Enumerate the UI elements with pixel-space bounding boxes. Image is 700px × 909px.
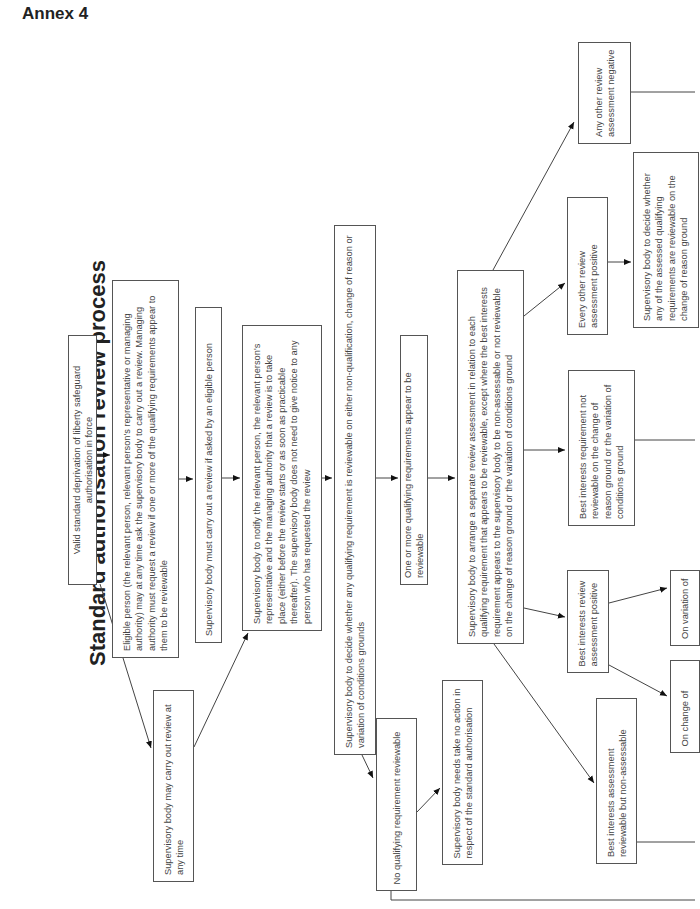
- node-bi-non-assessable: Best interests assessment reviewable but…: [596, 698, 637, 864]
- node-decide-change-of-reason: Supervisory body to decide whether any o…: [633, 152, 699, 328]
- node-every-other-positive: Every other review assessment positive: [567, 197, 608, 335]
- node-arrange-assessment: Supervisory body to arrange a separate r…: [457, 270, 524, 644]
- node-must-carry-out: Supervisory body must carry out a review…: [195, 307, 222, 643]
- node-on-change-of-text: On change of: [679, 660, 691, 753]
- node-any-other-negative-text: Any other review assessment negative: [592, 42, 617, 144]
- node-one-or-more: One or more qualifying requirements appe…: [400, 335, 428, 585]
- node-on-change-of: On change of: [670, 660, 700, 753]
- node-on-variation-of: On variation of: [670, 570, 700, 646]
- node-one-or-more-text: One or more qualifying requirements appe…: [402, 335, 427, 585]
- node-may-carry-out: Supervisory body may carry out review at…: [153, 690, 194, 882]
- node-notify-text: Supervisory body to notify the relevant …: [251, 325, 313, 631]
- node-no-qualifying: No qualifying requirement reviewable: [376, 718, 417, 891]
- node-bi-positive-text: Best interests review assessment positiv…: [576, 570, 601, 673]
- node-notify: Supervisory body to notify the relevant …: [242, 325, 322, 631]
- node-no-action-text: Supervisory body needs take no action in…: [450, 680, 475, 865]
- annex-label: Annex 4: [22, 4, 88, 24]
- node-must-carry-out-text: Supervisory body must carry out a review…: [202, 307, 214, 643]
- node-decide-reviewable-text: Supervisory body to decide whether any q…: [343, 225, 368, 755]
- node-bi-non-assessable-text: Best interests assessment reviewable but…: [604, 698, 629, 864]
- node-no-action: Supervisory body needs take no action in…: [442, 680, 483, 865]
- node-eligible-person-text: Eligible person (the relevant person, re…: [121, 280, 171, 658]
- node-valid-dols: Valid standard deprivation of liberty sa…: [68, 335, 97, 585]
- node-bi-not-reviewable: Best interests requirement not reviewabl…: [568, 370, 635, 526]
- node-may-carry-out-text: Supervisory body may carry out review at…: [161, 690, 186, 882]
- node-bi-not-reviewable-text: Best interests requirement not reviewabl…: [577, 370, 627, 526]
- node-any-other-negative: Any other review assessment negative: [578, 42, 631, 144]
- node-no-qualifying-text: No qualifying requirement reviewable: [390, 718, 402, 891]
- node-arrange-assessment-text: Supervisory body to arrange a separate r…: [466, 270, 516, 644]
- node-decide-change-of-reason-text: Supervisory body to decide whether any o…: [641, 152, 691, 328]
- node-eligible-person: Eligible person (the relevant person, re…: [112, 280, 179, 658]
- node-valid-dols-text: Valid standard deprivation of liberty sa…: [70, 335, 95, 585]
- node-every-other-positive-text: Every other review assessment positive: [575, 197, 600, 335]
- node-on-variation-of-text: On variation of: [679, 570, 691, 646]
- node-decide-reviewable: Supervisory body to decide whether any q…: [334, 225, 376, 755]
- node-bi-positive: Best interests review assessment positiv…: [567, 570, 609, 673]
